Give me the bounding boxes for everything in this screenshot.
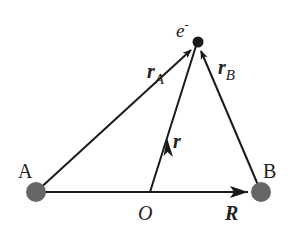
vector-r-line (150, 46, 196, 192)
diagram-svg: A B O e- rA rB r R (0, 0, 294, 237)
label-A: A (18, 160, 33, 182)
charge-B-dot (251, 182, 271, 202)
label-electron: e- (176, 17, 189, 41)
charge-A-dot (26, 182, 46, 202)
label-B: B (263, 160, 276, 182)
vector-rA-line (36, 50, 191, 192)
label-rB: rB (218, 56, 235, 83)
label-rA: rA (147, 60, 165, 87)
label-O: O (138, 202, 152, 224)
vector-diagram: A B O e- rA rB r R (0, 0, 294, 237)
label-r: r (173, 130, 181, 152)
label-R: R (224, 202, 238, 224)
electron-dot (193, 37, 204, 48)
